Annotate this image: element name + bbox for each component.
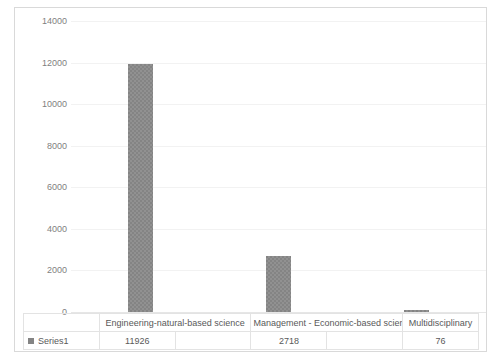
value-cell-empty-2 (327, 332, 403, 350)
y-tick-label-4000: 4000 (15, 224, 67, 234)
plot-area (71, 21, 486, 312)
value-engineering: 11926 (99, 332, 175, 350)
value-management: 2718 (251, 332, 327, 350)
category-label-engineering: Engineering-natural-based science (99, 314, 251, 332)
legend-swatch-icon (28, 338, 34, 344)
bar-2 (404, 310, 429, 312)
table-row-series1: Series1 11926 2718 76 (24, 332, 479, 350)
legend-series1: Series1 (24, 332, 100, 350)
y-tick-label-14000: 14000 (15, 16, 67, 26)
category-label-management: Management - Economic-based science (251, 314, 403, 332)
y-tick-label-8000: 8000 (15, 141, 67, 151)
category-label-multidisciplinary: Multidisciplinary (403, 314, 479, 332)
gridline-14000 (71, 21, 486, 22)
bar-0 (128, 64, 153, 312)
chart-frame: 02000400060008000100001200014000 Enginee… (14, 7, 487, 352)
table-row-categories: Engineering-natural-based science Manage… (24, 314, 479, 332)
y-tick-label-6000: 6000 (15, 182, 67, 192)
bar-1 (266, 256, 291, 312)
category-header-spacer (24, 314, 100, 332)
y-tick-label-12000: 12000 (15, 58, 67, 68)
y-tick-label-2000: 2000 (15, 265, 67, 275)
value-multidisciplinary: 76 (403, 332, 479, 350)
y-tick-label-10000: 10000 (15, 99, 67, 109)
y-axis-tick-labels: 02000400060008000100001200014000 (15, 21, 67, 312)
legend-label: Series1 (38, 336, 69, 346)
chart-data-table: Engineering-natural-based science Manage… (23, 313, 479, 350)
value-cell-empty-1 (175, 332, 251, 350)
